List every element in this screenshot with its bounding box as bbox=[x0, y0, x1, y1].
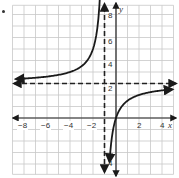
y-tick-label: 2 bbox=[108, 84, 113, 93]
y-axis-label: y bbox=[118, 4, 123, 14]
x-tick-label: −4 bbox=[64, 121, 74, 130]
x-tick-label: 2 bbox=[137, 121, 142, 130]
y-tick-label: 4 bbox=[108, 159, 113, 168]
x-tick-label: −8 bbox=[18, 121, 28, 130]
graph: −8 −6 −4 −2 2 4 x 8 6 4 2 4 y bbox=[0, 0, 179, 178]
grid-lines bbox=[13, 5, 174, 174]
x-tick-label: −6 bbox=[41, 121, 51, 130]
x-tick-label: −2 bbox=[87, 121, 97, 130]
x-tick-label: 4 bbox=[160, 121, 165, 130]
y-tick-label: 6 bbox=[108, 37, 113, 46]
y-tick-label: 8 bbox=[108, 11, 113, 20]
x-axis-label: x bbox=[167, 120, 172, 130]
y-tick-label: 4 bbox=[108, 60, 113, 69]
